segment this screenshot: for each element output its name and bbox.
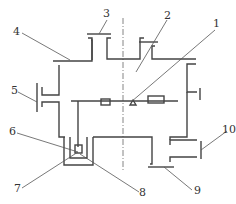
leader-4 (22, 33, 70, 60)
callout-6: 6 (9, 125, 16, 138)
schematic-diagram: 1 2 3 4 5 6 7 8 9 10 (0, 0, 236, 204)
callout-2: 2 (164, 9, 171, 22)
left-upper-wall (42, 65, 59, 95)
top-wall-between-ports (107, 38, 144, 59)
callout-8: 8 (139, 186, 146, 199)
leader-5 (18, 92, 37, 102)
callout-9: 9 (194, 184, 201, 197)
top-right-wall (152, 46, 196, 59)
right-upper-wall (187, 64, 197, 92)
right-port-10-upper (170, 140, 197, 145)
top-port-3-left-wall (88, 38, 92, 60)
right-port-10-lower (170, 157, 197, 162)
callout-5: 5 (11, 84, 18, 97)
leader-3 (99, 20, 107, 34)
leader-7 (22, 152, 78, 188)
bottom-wall (93, 137, 152, 164)
leader-9 (164, 167, 192, 190)
callout-4: 4 (13, 25, 20, 38)
beam-block (101, 99, 110, 105)
callout-1: 1 (213, 17, 220, 30)
callout-3: 3 (103, 7, 110, 20)
right-lower-wall (170, 92, 187, 140)
callout-7: 7 (14, 182, 21, 195)
leader-8 (80, 154, 139, 192)
top-left-wall (53, 40, 92, 61)
leader-1 (131, 30, 215, 102)
beam-counterweight (148, 96, 164, 103)
leader-6 (17, 133, 78, 152)
callout-10: 10 (222, 123, 236, 136)
left-lower-wall (42, 102, 65, 137)
